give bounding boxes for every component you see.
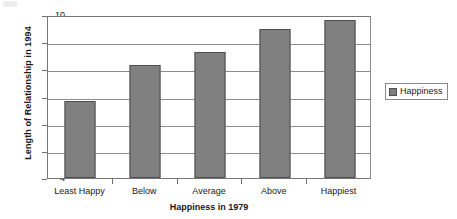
bar-slot [178, 17, 243, 178]
bar-chart-figure: Length of Relationship in 1994 45678910 … [0, 0, 457, 219]
x-axis-category-label: Average [177, 186, 242, 196]
plot-area [47, 16, 371, 179]
bar-slot [113, 17, 178, 178]
bar-slot [242, 17, 307, 178]
x-axis-category-label: Below [112, 186, 177, 196]
bar [130, 65, 161, 178]
x-axis-title: Happiness in 1979 [47, 202, 371, 212]
bar [65, 101, 96, 178]
scan-artifact [3, 1, 17, 7]
x-axis-category-label: Above [241, 186, 306, 196]
bar-slot [48, 17, 113, 178]
chart-legend: Happiness [385, 83, 448, 100]
x-axis-tick-mark [177, 179, 178, 184]
x-axis-tick-mark [112, 179, 113, 184]
bar-slot [307, 17, 372, 178]
bar [259, 29, 290, 178]
y-axis-title: Length of Relationship in 1994 [23, 13, 33, 173]
x-axis-tick-mark [241, 179, 242, 184]
x-axis-tick-mark [306, 179, 307, 184]
bar [324, 20, 355, 178]
x-axis-category-label: Happiest [306, 186, 371, 196]
bar [194, 52, 225, 178]
legend-label-happiness: Happiness [400, 87, 443, 96]
legend-swatch-happiness [389, 88, 397, 96]
y-axis-tick-mark [42, 179, 47, 180]
x-axis-category-label: Least Happy [47, 186, 112, 196]
